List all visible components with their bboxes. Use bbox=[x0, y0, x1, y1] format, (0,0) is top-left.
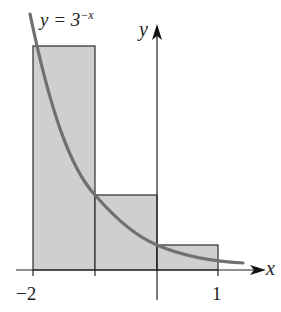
tick-label-neg2: −2 bbox=[16, 283, 36, 305]
y-axis-label: y bbox=[139, 18, 148, 41]
x-axis-label: x bbox=[266, 257, 275, 280]
rectangle-1 bbox=[33, 46, 95, 270]
riemann-sum-diagram: y = 3−x y x −2 1 bbox=[0, 0, 281, 312]
curve-label-exponent: −x bbox=[80, 8, 93, 22]
tick-label-1: 1 bbox=[212, 283, 222, 305]
curve-label-base: y = 3 bbox=[40, 9, 80, 30]
plot-area bbox=[0, 0, 281, 312]
curve-label: y = 3−x bbox=[40, 8, 94, 31]
